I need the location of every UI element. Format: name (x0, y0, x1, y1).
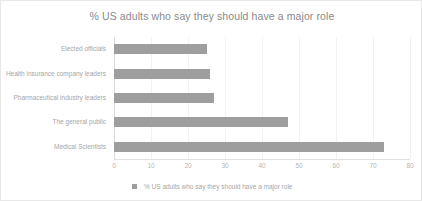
x-tick-label: 10 (147, 162, 154, 169)
category-axis-labels: Elected officialsHealth insurance compan… (1, 37, 110, 159)
x-tick-label: 50 (295, 162, 302, 169)
gridline (410, 37, 411, 159)
chart-container: % US adults who say they should have a m… (0, 0, 422, 201)
legend-entry-label: % US adults who say they should have a m… (144, 183, 293, 190)
bar-row (114, 37, 410, 61)
bar-row (114, 110, 410, 134)
x-tick-label: 30 (221, 162, 228, 169)
category-label: Medical Scientists (1, 142, 106, 152)
bar-row (114, 86, 410, 110)
bar-row (114, 61, 410, 85)
bar[interactable] (114, 93, 214, 103)
plot-area (114, 37, 410, 159)
bar[interactable] (114, 117, 288, 127)
category-label: Elected officials (1, 44, 106, 54)
x-axis-line (114, 159, 410, 160)
bar[interactable] (114, 142, 384, 152)
legend-swatch-icon (132, 184, 137, 189)
x-tick-label: 60 (332, 162, 339, 169)
x-tick-label: 0 (112, 162, 116, 169)
x-tick-label: 20 (184, 162, 191, 169)
bar[interactable] (114, 44, 207, 54)
x-tick-label: 70 (369, 162, 376, 169)
bar[interactable] (114, 69, 210, 79)
chart-title: % US adults who say they should have a m… (1, 10, 422, 22)
x-axis-tick-labels: 01020304050607080 (1, 162, 422, 174)
chart-legend: % US adults who say they should have a m… (1, 177, 422, 195)
category-label: Health insurance company leaders (1, 69, 106, 79)
category-label: Pharmaceutical industry leaders (1, 93, 106, 103)
x-tick-label: 40 (258, 162, 265, 169)
x-tick-label: 80 (406, 162, 413, 169)
category-label: The general public (1, 117, 106, 127)
bar-row (114, 135, 410, 159)
